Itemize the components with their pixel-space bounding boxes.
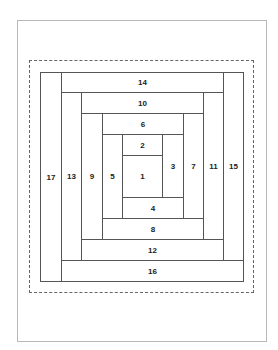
piece-number-label: 9 (90, 172, 94, 181)
piece-number-label: 10 (138, 99, 147, 108)
quilt-piece-7: 7 (183, 113, 204, 219)
piece-number-label: 13 (67, 172, 76, 181)
quilt-piece-8: 8 (102, 218, 204, 240)
piece-number-label: 6 (141, 120, 145, 129)
piece-number-label: 2 (140, 141, 144, 150)
quilt-piece-1: 1 (122, 155, 163, 198)
piece-number-label: 15 (229, 162, 238, 171)
quilt-piece-5: 5 (102, 134, 123, 219)
piece-number-label: 17 (47, 173, 56, 182)
quilt-piece-10: 10 (81, 92, 204, 114)
quilt-piece-6: 6 (102, 113, 184, 135)
piece-number-label: 7 (191, 162, 195, 171)
piece-number-label: 4 (151, 204, 155, 213)
quilt-piece-3: 3 (162, 134, 184, 198)
quilt-piece-11: 11 (203, 92, 224, 240)
piece-number-label: 8 (151, 225, 155, 234)
piece-number-label: 11 (209, 162, 217, 171)
quilt-piece-14: 14 (61, 72, 224, 93)
quilt-piece-12: 12 (81, 239, 224, 261)
piece-number-label: 12 (148, 246, 157, 255)
piece-number-label: 5 (110, 172, 114, 181)
quilt-piece-13: 13 (61, 92, 82, 261)
quilt-piece-15: 15 (223, 72, 244, 261)
quilt-piece-17: 17 (40, 72, 62, 282)
piece-number-label: 16 (148, 267, 157, 276)
piece-number-label: 3 (171, 162, 175, 171)
quilt-piece-16: 16 (61, 260, 244, 282)
quilt-piece-2: 2 (122, 134, 163, 156)
quilt-piece-9: 9 (81, 113, 103, 240)
piece-number-label: 1 (140, 172, 144, 181)
piece-number-label: 14 (138, 78, 147, 87)
quilt-piece-4: 4 (122, 197, 184, 219)
